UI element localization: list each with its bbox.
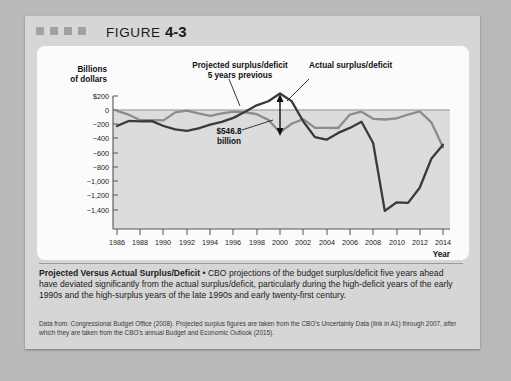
x-tick-label: 2002	[295, 238, 311, 247]
actual-leader-line	[287, 79, 309, 101]
x-tick-label: 1990	[155, 238, 171, 247]
y-tick-label: −600	[93, 149, 109, 158]
x-tick-label: 2004	[319, 238, 335, 247]
actual-series-label: Actual surplus/deficit	[309, 61, 393, 70]
projected-series-label-line2: 5 years previous	[208, 71, 273, 80]
x-tick-label: 1998	[249, 238, 265, 247]
x-tick-label: 2010	[389, 238, 405, 247]
x-tick-label: 2008	[365, 238, 381, 247]
y-tick-label: −400	[93, 134, 109, 143]
y-axis-title-line2: of dollars	[70, 75, 107, 84]
plot-area-background	[113, 110, 450, 229]
surplus-deficit-line-chart: Billions of dollars $200 0 −200 −400 −60…	[37, 46, 469, 260]
caption-bullet: •	[200, 268, 208, 278]
x-tick-label: 2014	[435, 238, 451, 247]
x-tick-label: 1988	[132, 238, 148, 247]
page-title: FIGURE 4-3	[106, 23, 187, 40]
y-tick-label: 0	[105, 106, 109, 115]
x-tick-label: 2012	[412, 238, 428, 247]
source-note: Data from: Congressional Budget Office (…	[39, 320, 459, 337]
y-axis-title-line1: Billions	[77, 65, 107, 74]
y-tick-label: −1,200	[87, 191, 109, 200]
x-tick-label: 1992	[179, 238, 195, 247]
x-tick-label: 1996	[225, 238, 241, 247]
y-tick-label: −1,400	[87, 206, 109, 215]
y-tick-label: $200	[93, 92, 109, 101]
caption-divider	[39, 263, 463, 264]
chart-panel: Billions of dollars $200 0 −200 −400 −60…	[37, 46, 469, 260]
gap-callout-value: $546.8	[216, 127, 241, 136]
figure-header: FIGURE 4-3	[25, 16, 480, 46]
x-tick-label: 2000	[272, 238, 288, 247]
decorative-squares	[36, 27, 86, 35]
y-tick-label: −200	[93, 120, 109, 129]
figure-caption: Projected Versus Actual Surplus/Deficit …	[39, 268, 463, 302]
y-tick-label: −800	[93, 163, 109, 172]
projected-series-label-line1: Projected surplus/deficit	[192, 61, 288, 70]
figure-card: FIGURE 4-3 Billions of dollars $200 0 −2…	[25, 16, 480, 349]
caption-title: Projected Versus Actual Surplus/Deficit	[39, 268, 200, 278]
x-tick-label: 1994	[202, 238, 218, 247]
x-tick-group: 1986 1988 1990 1992 1994 1996 1998 2000 …	[109, 229, 451, 247]
projected-leader-line	[229, 79, 240, 106]
gap-callout-unit: billion	[217, 137, 241, 146]
figure-label: FIGURE	[106, 25, 165, 40]
x-axis-title: Year	[433, 250, 451, 259]
y-tick-label: −1,000	[87, 177, 109, 186]
x-tick-label: 2006	[342, 238, 358, 247]
figure-number: 4-3	[165, 23, 187, 40]
x-tick-label: 1986	[109, 238, 125, 247]
